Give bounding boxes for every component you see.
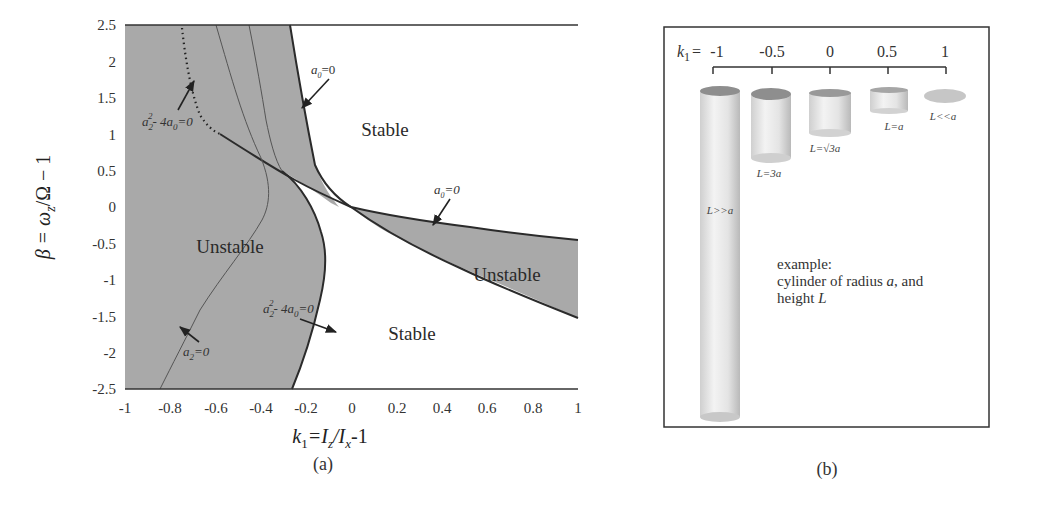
svg-text:-0.2: -0.2: [294, 400, 318, 416]
svg-text:1.5: 1.5: [97, 90, 116, 106]
panel-b-diagram: k1= -1 -0.5 0 0.5 1 L>>a: [664, 27, 989, 480]
svg-text:0.2: 0.2: [388, 400, 407, 416]
svg-text:0: 0: [109, 199, 117, 215]
region-label-unstable-left: Unstable: [196, 236, 264, 257]
figure-canvas: Stable Unstable Unstable Stable a22- 4a0…: [0, 0, 1038, 512]
svg-text:L=√3a: L=√3a: [809, 142, 841, 154]
svg-text:-0.8: -0.8: [158, 400, 182, 416]
panel-a-chart: Stable Unstable Unstable Stable a22- 4a0…: [32, 17, 582, 475]
panel-a-caption: (a): [313, 454, 333, 475]
svg-text:-0.6: -0.6: [204, 400, 228, 416]
svg-text:0.4: 0.4: [433, 400, 452, 416]
svg-text:-2.5: -2.5: [92, 381, 116, 397]
svg-text:-0.4: -0.4: [249, 400, 273, 416]
svg-text:0: 0: [826, 43, 834, 60]
svg-text:1: 1: [574, 400, 582, 416]
svg-text:L=3a: L=3a: [756, 167, 782, 179]
x-axis-label: k1=Iz/Ix-1: [292, 425, 367, 451]
y-axis-ticks: 2.5 2 1.5 1 0.5 0 -0.5 -1 -1.5 -2 -2.5: [92, 17, 116, 397]
svg-text:-1: -1: [104, 272, 117, 288]
example-line-1: example:: [777, 256, 832, 272]
example-line-2: cylinder of radius a, and: [777, 273, 924, 289]
svg-text:1: 1: [109, 127, 117, 143]
svg-text:0: 0: [348, 400, 356, 416]
svg-text:0.6: 0.6: [478, 400, 497, 416]
svg-text:-2: -2: [104, 345, 117, 361]
svg-text:0.5: 0.5: [877, 43, 897, 60]
svg-text:-1.5: -1.5: [92, 309, 116, 325]
svg-text:L>>a: L>>a: [706, 204, 734, 216]
panel-b-caption: (b): [817, 459, 838, 480]
svg-text:-0.5: -0.5: [92, 236, 116, 252]
svg-text:-1: -1: [710, 43, 723, 60]
svg-text:0.8: 0.8: [524, 400, 543, 416]
svg-text:2: 2: [109, 54, 117, 70]
svg-text:0.5: 0.5: [97, 163, 116, 179]
example-line-3: height L: [777, 290, 827, 306]
svg-text:-1: -1: [119, 400, 132, 416]
region-label-stable-bottom: Stable: [388, 323, 436, 344]
cylinder-k-minus-1: L>>a: [700, 86, 740, 422]
svg-text:2.5: 2.5: [97, 17, 116, 33]
y-axis-label: β = ωz/Ω − 1: [32, 155, 58, 261]
svg-text:L<<a: L<<a: [929, 110, 957, 122]
region-label-unstable-right: Unstable: [473, 264, 541, 285]
region-label-stable-top: Stable: [361, 119, 409, 140]
svg-text:1: 1: [941, 43, 949, 60]
svg-text:a22- 4a0=0: a22- 4a0=0: [263, 298, 314, 319]
svg-text:-0.5: -0.5: [759, 43, 784, 60]
svg-text:a22- 4a0=0: a22- 4a0=0: [142, 111, 193, 132]
x-axis-ticks: -1 -0.8 -0.6 -0.4 -0.2 0 0.2 0.4 0.6 0.8…: [119, 400, 582, 416]
svg-text:L=a: L=a: [883, 120, 904, 132]
